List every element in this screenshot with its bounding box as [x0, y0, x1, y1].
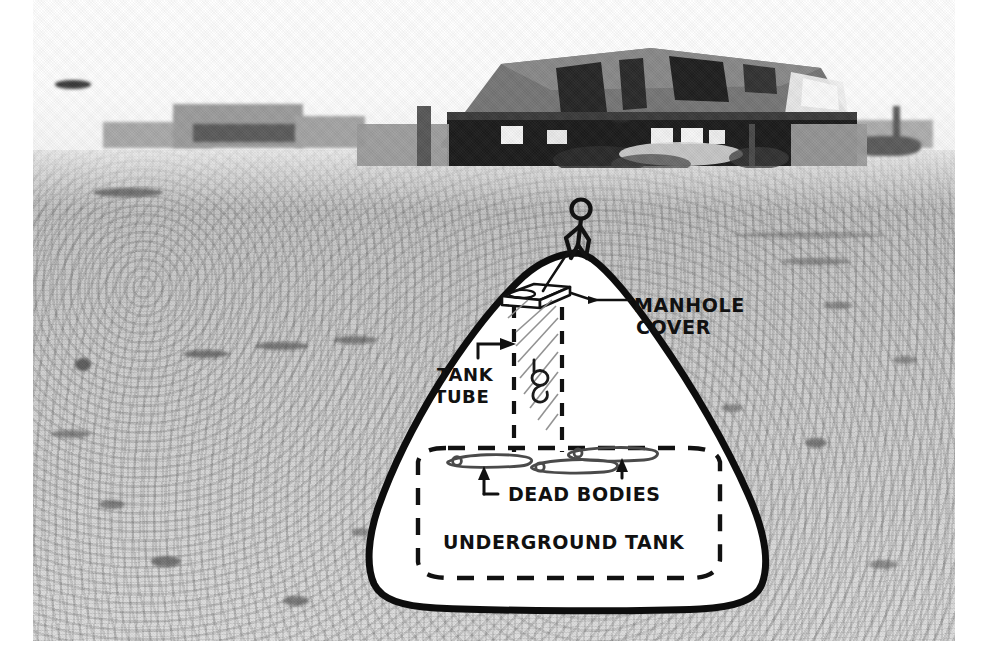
ground-streak [733, 232, 883, 238]
ground-rock [151, 556, 181, 567]
ground-rock [183, 350, 229, 358]
ground-rock [93, 188, 163, 197]
ground-rock [721, 404, 743, 412]
ground-rock [333, 336, 377, 344]
ground-rock [781, 258, 851, 265]
desert-ground [33, 150, 955, 641]
ground-rock [823, 302, 853, 309]
sky-smudge-right [611, 115, 631, 122]
ground-rock [99, 500, 125, 509]
ground-rock [805, 438, 827, 448]
ground-rock [283, 596, 309, 606]
ruined-building [351, 28, 871, 168]
screenshot-root: MANHOLE COVER TANK TUBE DEAD BODIES UNDE… [0, 0, 992, 672]
ground-rock [869, 560, 897, 569]
ground-rock [75, 358, 91, 371]
ground-rock [51, 430, 91, 438]
ground-rock [893, 356, 917, 364]
ground-rock [255, 342, 309, 350]
ground-rock [351, 528, 371, 536]
photograph-plate [33, 0, 955, 641]
distant-block-left-shadow [193, 124, 303, 142]
sky-smudge-left [55, 80, 91, 89]
